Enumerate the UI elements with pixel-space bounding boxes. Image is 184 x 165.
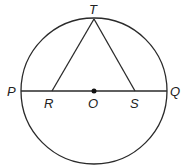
label-r: R bbox=[44, 96, 53, 111]
label-q: Q bbox=[170, 84, 180, 99]
segment-ts bbox=[94, 19, 135, 91]
label-t: T bbox=[89, 2, 98, 17]
center-point-o bbox=[92, 89, 97, 94]
geometry-diagram: T P Q R O S bbox=[0, 0, 184, 165]
label-s: S bbox=[130, 96, 139, 111]
label-o: O bbox=[88, 96, 98, 111]
label-p: P bbox=[7, 84, 16, 99]
segment-tr bbox=[52, 19, 94, 91]
